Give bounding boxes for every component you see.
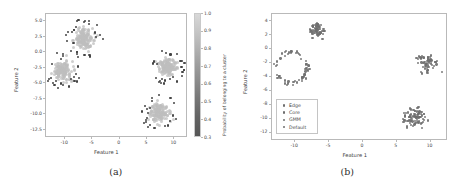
x-tick-label: 10 [167, 140, 179, 145]
x-tick-label: -10 [58, 140, 70, 145]
x-tick-label: 5 [390, 143, 402, 148]
y-tick-label: 0 [249, 45, 268, 50]
y-tick-label: 4 [249, 18, 268, 23]
y-tick-mark [269, 118, 271, 119]
y-tick-label: 5.0 [23, 18, 42, 23]
y-tick-mark [269, 76, 271, 77]
x-tick-mark [328, 140, 329, 142]
x-tick-mark [64, 137, 65, 139]
colorbar-tick-mark [201, 48, 203, 49]
x-axis-title-a: Feature 1 [94, 149, 119, 155]
x-tick-label: 10 [424, 143, 436, 148]
caption-a: (a) [0, 166, 232, 177]
legend-item-edge[interactable]: Edge [280, 102, 314, 109]
plot-area-a [45, 13, 187, 137]
colorbar-tick-label: 1.0 [204, 11, 211, 16]
y-tick-mark [269, 48, 271, 49]
figure-two-panel-scatter: -10-505105.02.50.0-2.5-5.0-7.5-10.0-12.5… [0, 0, 463, 189]
legend-label: Default [289, 125, 306, 130]
legend-marker-icon [283, 119, 286, 122]
x-tick-label: -10 [288, 143, 300, 148]
y-tick-label: -4 [249, 73, 268, 78]
y-tick-label: -8 [249, 101, 268, 106]
y-tick-mark [269, 20, 271, 21]
y-tick-label: -5.0 [23, 80, 42, 85]
y-tick-label: -12.5 [23, 127, 42, 132]
y-tick-label: -10.0 [23, 111, 42, 116]
y-tick-label: -12 [249, 129, 268, 134]
colorbar-title-a: Probability of belonging to a cluster [222, 54, 227, 136]
x-tick-label: 0 [113, 140, 125, 145]
y-tick-label: -7.5 [23, 96, 42, 101]
x-tick-label: 0 [356, 143, 368, 148]
y-tick-label: -6 [249, 87, 268, 92]
colorbar-tick-mark [201, 137, 203, 138]
x-tick-mark [396, 140, 397, 142]
y-tick-mark [43, 20, 45, 21]
colorbar-tick-label: 0.3 [204, 135, 211, 140]
y-tick-mark [269, 62, 271, 63]
colorbar-tick-label: 0.7 [204, 64, 211, 69]
panel-a: -10-505105.02.50.0-2.5-5.0-7.5-10.0-12.5… [0, 0, 232, 189]
colorbar-tick-mark [201, 66, 203, 67]
y-tick-mark [43, 36, 45, 37]
legend-marker-icon [283, 126, 286, 129]
x-tick-mark [146, 137, 147, 139]
legend-marker-icon [283, 104, 286, 107]
panel-b: -10-50510420-2-4-6-8-10-12 Feature 1 Fea… [232, 0, 463, 189]
x-tick-mark [362, 140, 363, 142]
y-tick-mark [43, 98, 45, 99]
x-tick-label: -5 [322, 143, 334, 148]
y-axis-title-a: Feature 2 [13, 67, 19, 92]
y-axis-title-b: Feature 2 [242, 69, 248, 94]
legend-b[interactable]: EdgeCoreGMMDefault [276, 99, 318, 134]
colorbar-tick-label: 0.4 [204, 117, 211, 122]
legend-item-default[interactable]: Default [280, 124, 314, 131]
y-tick-mark [43, 129, 45, 130]
x-axis-title-b: Feature 1 [343, 152, 368, 158]
x-tick-label: -5 [85, 140, 97, 145]
y-tick-mark [269, 104, 271, 105]
y-tick-mark [269, 132, 271, 133]
x-tick-mark [294, 140, 295, 142]
x-tick-mark [173, 137, 174, 139]
x-tick-mark [91, 137, 92, 139]
y-tick-label: -10 [249, 115, 268, 120]
colorbar-tick-mark [201, 102, 203, 103]
x-tick-mark [119, 137, 120, 139]
y-tick-mark [269, 34, 271, 35]
colorbar-tick-label: 0.6 [204, 81, 211, 86]
y-tick-mark [43, 82, 45, 83]
y-tick-label: -2 [249, 59, 268, 64]
y-tick-mark [43, 113, 45, 114]
x-tick-mark [430, 140, 431, 142]
legend-item-gmm[interactable]: GMM [280, 116, 314, 123]
y-tick-label: 2 [249, 32, 268, 37]
x-tick-label: 5 [140, 140, 152, 145]
legend-label: Core [289, 110, 300, 115]
colorbar-tick-label: 0.8 [204, 46, 211, 51]
legend-label: GMM [289, 117, 301, 122]
legend-label: Edge [289, 103, 301, 108]
y-tick-mark [43, 51, 45, 52]
y-tick-label: 2.5 [23, 34, 42, 39]
caption-b: (b) [232, 166, 463, 177]
y-tick-mark [43, 67, 45, 68]
y-tick-label: -2.5 [23, 65, 42, 70]
colorbar-tick-label: 0.9 [204, 28, 211, 33]
legend-marker-icon [283, 111, 286, 114]
legend-item-core[interactable]: Core [280, 109, 314, 116]
colorbar-tick-mark [201, 84, 203, 85]
y-tick-mark [269, 90, 271, 91]
colorbar-tick-label: 0.5 [204, 99, 211, 104]
colorbar-tick-mark [201, 13, 203, 14]
colorbar-a [194, 13, 201, 137]
colorbar-tick-mark [201, 31, 203, 32]
y-tick-label: 0.0 [23, 49, 42, 54]
colorbar-tick-mark [201, 119, 203, 120]
